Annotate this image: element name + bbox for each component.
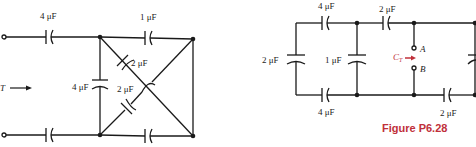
terminal-b-label: B [420, 64, 426, 74]
circuit-diagrams: 4 μF 1 μF 2 μF 2 μF 4 μF T 4 μF 2 μF 2 μ… [0, 0, 476, 147]
label-ct: CT [393, 52, 403, 63]
label-left-vertical-4uF: 4 μF [72, 82, 89, 92]
label-right-top-2uF: 2 μF [379, 4, 396, 14]
label-right-mid-1uF: 1 μF [325, 55, 342, 65]
label-right-left-2uF: 2 μF [262, 55, 279, 65]
label-left-top-4uF: 4 μF [40, 11, 57, 21]
label-right-bottom-4uF: 4 μF [318, 107, 335, 117]
figure-caption: Figure P6.28 [382, 122, 447, 134]
label-left-diag-upper-2uF: 2 μF [131, 58, 148, 68]
label-right-top-4uF: 4 μF [318, 1, 335, 11]
label-left-top-1uF: 1 μF [140, 12, 157, 22]
label-right-bottom-2uF: 2 μF [440, 108, 457, 118]
terminal-a-label: A [419, 44, 426, 54]
label-left-ct: T [0, 83, 6, 93]
label-left-diag-lower-2uF: 2 μF [117, 84, 134, 94]
